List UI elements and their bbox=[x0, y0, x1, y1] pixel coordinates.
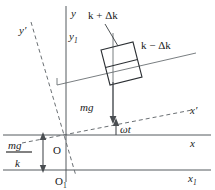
static-deflection-denominator: k bbox=[15, 157, 21, 169]
diagram-canvas: y y1 y′ x x1 x′ O O1 k + Δk k − Δk mg ωt… bbox=[0, 0, 215, 189]
spring-stiffness-plus-label: k + Δk bbox=[88, 9, 118, 21]
static-deflection-numerator: mg bbox=[8, 139, 22, 151]
physics-diagram: y y1 y′ x x1 x′ O O1 k + Δk k − Δk mg ωt… bbox=[0, 0, 215, 189]
y-axis-label: y bbox=[70, 7, 76, 19]
origin1-label: O1 bbox=[55, 175, 67, 189]
mass-block-divider bbox=[106, 60, 138, 68]
y1-axis-label: y1 bbox=[68, 30, 78, 45]
deflection-arrow-head-bottom bbox=[40, 165, 46, 173]
mass-block bbox=[101, 42, 142, 85]
spring-stiffness-minus-label: k − Δk bbox=[141, 39, 171, 51]
origin1-label-sub: 1 bbox=[63, 181, 67, 190]
origin1-label-base: O bbox=[55, 175, 63, 187]
x1-axis-label: x1 bbox=[187, 172, 197, 187]
y-prime-label-mark: ′ bbox=[24, 24, 27, 36]
deflection-arrow-head-top bbox=[40, 132, 46, 140]
k-plus-leader-line bbox=[105, 24, 118, 46]
x-prime-axis-label: x′ bbox=[189, 104, 198, 116]
x-prime-axis-line bbox=[22, 110, 192, 143]
origin-label: O bbox=[53, 144, 61, 156]
y-prime-axis-label: y′ bbox=[18, 24, 27, 36]
static-deflection-dimension bbox=[40, 132, 46, 173]
mg-force-arrow bbox=[110, 82, 117, 124]
x-axis-label: x bbox=[189, 137, 195, 149]
x-prime-label-mark: ′ bbox=[195, 104, 198, 116]
weight-force-label: mg bbox=[80, 101, 94, 113]
inclined-support-line bbox=[57, 53, 196, 85]
x1-axis-label-sub: 1 bbox=[193, 178, 197, 187]
y1-axis-label-sub: 1 bbox=[74, 36, 78, 45]
angle-label: ωt bbox=[120, 123, 132, 135]
